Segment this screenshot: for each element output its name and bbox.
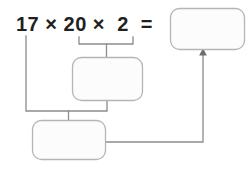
combined-product-value[interactable] [32,120,106,160]
worksheet-canvas: 17 × 20 × 2 = [0,0,249,170]
math-expression: 17 × 20 × 2 = [16,12,153,36]
bracket-20-times-2 [79,37,133,57]
partial-product-value[interactable] [72,57,143,101]
final-answer-value[interactable] [170,8,245,50]
